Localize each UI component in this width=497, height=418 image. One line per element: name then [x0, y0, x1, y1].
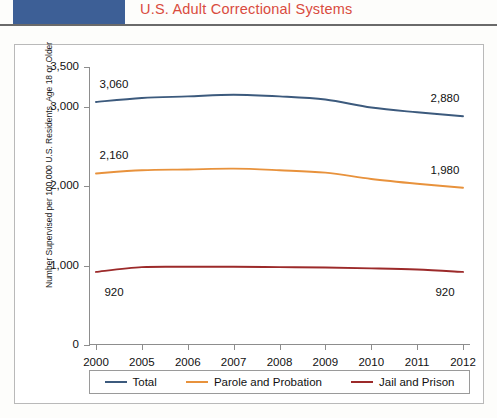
- x-tick-label: 2008: [267, 356, 293, 368]
- x-tick-label: 2012: [450, 356, 476, 368]
- x-tick-label: 2007: [221, 356, 247, 368]
- legend-swatch: [105, 381, 127, 383]
- figure-header: U.S. Adult Correctional Systems: [0, 0, 497, 28]
- data-point-label: 2,880: [431, 92, 460, 104]
- page-title: U.S. Adult Correctional Systems: [140, 1, 353, 17]
- x-tick-label: 2000: [83, 356, 109, 368]
- y-tick-label: 0: [73, 338, 79, 350]
- x-tick-label: 2011: [405, 356, 430, 368]
- legend-item: Total: [105, 376, 157, 388]
- y-tick-label: 3,500: [50, 60, 79, 72]
- x-tick-label: 2006: [175, 356, 201, 368]
- data-point-label: 920: [435, 286, 454, 298]
- y-tick: 0: [84, 345, 90, 346]
- data-point-label: 920: [104, 286, 123, 298]
- series-line: [96, 267, 463, 272]
- legend-swatch: [351, 381, 373, 383]
- legend-item: Parole and Probation: [186, 376, 322, 388]
- legend-swatch: [186, 381, 208, 383]
- series-line: [96, 169, 463, 188]
- legend-label: Total: [133, 376, 157, 388]
- x-tick-label: 2009: [313, 356, 339, 368]
- y-axis-title: Number Supervised per 100,000 U.S. Resid…: [44, 48, 54, 288]
- x-tick-label: 2005: [129, 356, 155, 368]
- header-divider: [0, 24, 497, 26]
- data-point-label: 3,060: [100, 78, 129, 90]
- y-tick-label: 3,000: [50, 100, 79, 112]
- legend-label: Parole and Probation: [214, 376, 322, 388]
- legend-label: Jail and Prison: [379, 376, 454, 388]
- chart-figure: Number Supervised per 100,000 U.S. Resid…: [14, 44, 484, 404]
- data-point-label: 1,980: [431, 164, 460, 176]
- x-tick-label: 2010: [358, 356, 384, 368]
- plot-area: 01,0002,0003,0003,500 200020052006200720…: [89, 67, 470, 345]
- legend-item: Jail and Prison: [351, 376, 454, 388]
- series-line: [96, 95, 463, 116]
- series-lines: [89, 67, 470, 345]
- y-tick-label: 1,000: [50, 259, 79, 271]
- y-tick-label: 2,000: [50, 179, 79, 191]
- chart-legend: TotalParole and ProbationJail and Prison: [89, 370, 470, 394]
- header-color-block: [13, 0, 125, 24]
- data-point-label: 2,160: [100, 149, 129, 161]
